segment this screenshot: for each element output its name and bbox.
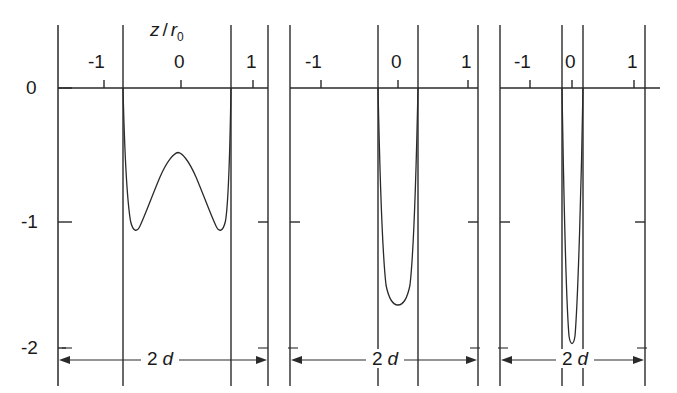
x-axis-title-z: z [150, 19, 160, 40]
panel3-width-number: 2 [562, 348, 573, 369]
curve-narrow-well [562, 88, 583, 344]
y-tick-label-minus1: -1 [21, 212, 38, 231]
panel2-xtick-label-0: 0 [391, 52, 402, 71]
x-axis-title-subscript: 0 [177, 30, 184, 44]
panel1-xtick-label-1: 1 [246, 52, 257, 71]
panel3-dim-arrow-right [633, 356, 644, 364]
curve-double-well [123, 88, 231, 230]
panel3-width-label: 2d [556, 349, 594, 368]
panel3-dim-arrow-left [501, 356, 512, 364]
x-axis-title-slash: / [160, 19, 171, 40]
panel2-width-label: 2d [366, 349, 404, 368]
curve-single-well [378, 88, 418, 305]
y-tick-label-0: 0 [26, 78, 37, 97]
panel2-width-d: d [383, 348, 399, 369]
panel1-dim-arrow-left [59, 356, 70, 364]
panel1-xtick-label-minus1: -1 [88, 52, 105, 71]
panel1-width-number: 2 [147, 348, 158, 369]
panel1-width-d: d [158, 348, 174, 369]
panel2-width-number: 2 [372, 348, 383, 369]
panel1-xtick-label-0: 0 [174, 52, 185, 71]
panel3-xtick-label-0: 0 [565, 52, 576, 71]
panel3-xtick-label-1: 1 [627, 52, 638, 71]
figure-potential-wells: 0 -1 -2 z/r0 -1 0 1 -1 0 1 -1 0 1 2d 2d … [0, 0, 677, 393]
panel2-xtick-label-minus1: -1 [305, 52, 322, 71]
panel3-xtick-label-minus1: -1 [514, 52, 531, 71]
panel1-width-label: 2d [141, 349, 179, 368]
x-axis-title: z/r0 [150, 20, 184, 43]
panel3-width-d: d [573, 348, 589, 369]
y-tick-label-minus2: -2 [21, 338, 38, 357]
panel2-dim-arrow-left [291, 356, 302, 364]
panel2-xtick-label-1: 1 [461, 52, 472, 71]
panel2-dim-arrow-right [466, 356, 477, 364]
panel1-dim-arrow-right [256, 356, 267, 364]
